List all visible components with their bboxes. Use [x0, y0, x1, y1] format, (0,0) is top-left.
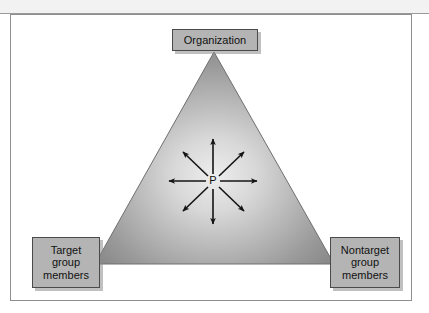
label-target-line-1: Target — [51, 244, 82, 257]
label-nontarget-group-members: Nontarget group members — [330, 237, 400, 288]
label-organization: Organization — [172, 29, 258, 51]
page-scan-band — [0, 0, 429, 14]
triangle-shape — [95, 52, 334, 264]
person-node-label: P — [206, 173, 220, 187]
page-canvas: P Organization Target group members Nont… — [0, 0, 429, 313]
label-target-line-3: members — [43, 269, 89, 282]
label-nontarget-line-1: Nontarget — [341, 244, 389, 257]
figure-container: P Organization Target group members Nont… — [10, 14, 412, 301]
label-target-line-2: group — [52, 256, 80, 269]
label-nontarget-line-3: members — [342, 269, 388, 282]
label-nontarget-line-2: group — [351, 256, 379, 269]
label-target-group-members: Target group members — [32, 237, 100, 288]
label-organization-line-1: Organization — [184, 34, 246, 47]
